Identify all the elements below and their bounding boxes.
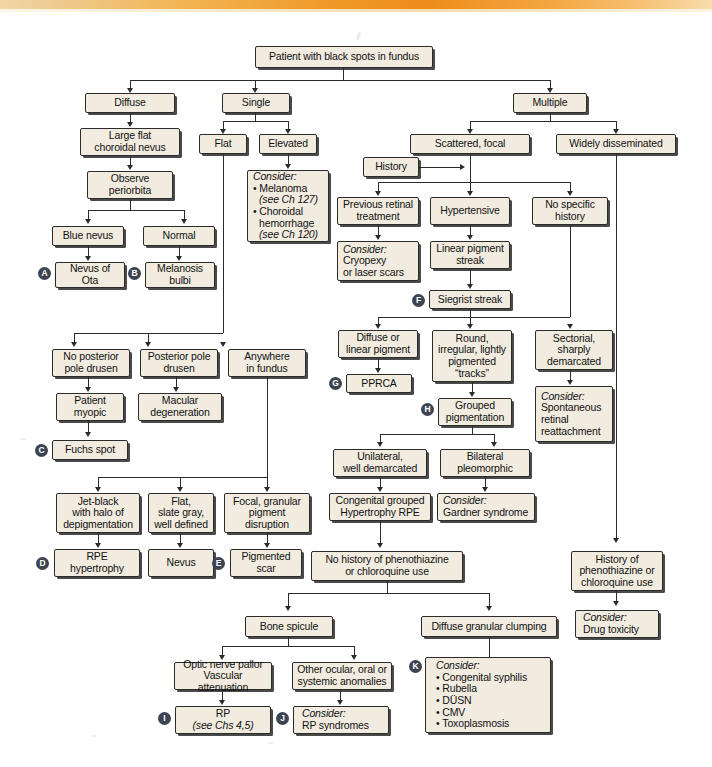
arrowhead (176, 256, 182, 261)
arrowhead (220, 342, 226, 347)
paper-speck (268, 742, 273, 744)
arrowhead (375, 191, 381, 196)
marker-c: C (35, 444, 48, 457)
connector (470, 154, 471, 182)
arrowhead (467, 324, 473, 329)
arrowhead (127, 165, 133, 170)
node-flat-slate-gray[interactable]: Flat, slate gray, well defined (148, 493, 214, 533)
arrowhead (377, 442, 383, 447)
connector (550, 113, 551, 121)
arrowhead (85, 256, 91, 261)
node-widely-disseminated[interactable]: Widely disseminated (556, 134, 676, 154)
node-focal-granular[interactable]: Focal, granular pigment disruption (224, 493, 310, 533)
node-no-specific-history[interactable]: No specific history (532, 197, 608, 225)
node-other-ocular-oral-systemic[interactable]: Other ocular, oral or systemic anomalies (292, 662, 392, 690)
arrowhead (337, 700, 343, 705)
arrowhead (219, 700, 225, 705)
node-diffuse-granular-clumping[interactable]: Diffuse granular clumping (421, 616, 557, 637)
arrowhead (486, 606, 492, 611)
marker-b: B (128, 267, 141, 280)
node-anywhere-in-fundus[interactable]: Anywhere in fundus (228, 349, 306, 377)
arrowhead (264, 487, 270, 492)
node-bilateral-pleomorphic[interactable]: Bilateral pleomorphic (440, 449, 530, 477)
arrowhead (375, 235, 381, 240)
arrowhead (377, 543, 383, 548)
node-consider-drug-toxicity[interactable]: Consider: Drug toxicity (575, 610, 659, 638)
node-elevated[interactable]: Elevated (259, 134, 317, 154)
arrowhead (351, 655, 357, 660)
connector (130, 199, 131, 210)
connector (570, 225, 571, 317)
node-melanosis-bulbi[interactable]: Melanosis bulbi (145, 262, 215, 288)
node-nevus-of-ota[interactable]: Nevus of Ota (55, 262, 125, 288)
node-jet-black[interactable]: Jet-black with halo of depigmentation (56, 493, 140, 533)
node-no-history-phenothiazine[interactable]: No history of phenothiazine or chloroqui… (311, 551, 463, 581)
arrowhead (127, 122, 133, 127)
node-nevus[interactable]: Nevus (148, 549, 214, 577)
node-scattered-focal[interactable]: Scattered, focal (410, 134, 530, 154)
connector (288, 637, 289, 646)
arrowhead (375, 324, 381, 329)
node-normal[interactable]: Normal (143, 226, 215, 246)
arrowhead (85, 387, 91, 392)
node-history-phenothiazine[interactable]: History of phenothiazine or chloroquine … (571, 551, 663, 591)
node-round-irregular-tracks[interactable]: Round, irregular, lightly pigmented “tra… (432, 330, 512, 382)
connector (470, 309, 471, 317)
arrowhead (467, 235, 473, 240)
node-macular-degeneration[interactable]: Macular degeneration (138, 393, 222, 421)
figure-page: Patient with black spots in fundus Diffu… (0, 0, 712, 767)
node-siegrist-streak[interactable]: Siegrist streak (429, 290, 511, 309)
node-consider-gardner-syndrome[interactable]: Consider: Gardner syndrome (437, 493, 535, 521)
arrowhead (264, 543, 270, 548)
arrowhead (467, 284, 473, 289)
node-grouped-pigmentation[interactable]: Grouped pigmentation (438, 398, 512, 426)
node-patient-myopic[interactable]: Patient myopic (56, 393, 124, 421)
arrowhead (177, 487, 183, 492)
node-diffuse-or-linear-pigment[interactable]: Diffuse or linear pigment (338, 330, 418, 358)
node-linear-pigment-streak[interactable]: Linear pigment streak (430, 241, 510, 269)
connector (378, 317, 570, 318)
node-consider-congenital-list[interactable]: Consider: • Congenital syphilis • Rubell… (425, 657, 551, 733)
connector (472, 426, 473, 434)
node-root[interactable]: Patient with black spots in fundus (255, 46, 433, 68)
node-history[interactable]: History (363, 157, 419, 177)
connector (98, 477, 267, 478)
node-rp[interactable]: RP (see Chs 4,5) (175, 706, 271, 734)
node-observe-periorbita[interactable]: Observe periorbita (87, 171, 173, 199)
node-flat[interactable]: Flat (199, 134, 247, 154)
node-bone-spicule[interactable]: Bone spicule (245, 616, 333, 637)
node-congenital-grouped-hypertrophy-rpe[interactable]: Congenital grouped Hypertrophy RPE (329, 493, 431, 521)
node-consider-cryopexy[interactable]: Consider: Cryopexy or laser scars (337, 241, 419, 281)
node-fuchs-spot[interactable]: Fuchs spot (52, 440, 128, 460)
node-rpe-hypertrophy[interactable]: RPE hypertrophy (54, 549, 140, 577)
connector (380, 434, 494, 435)
node-blue-nevus[interactable]: Blue nevus (52, 226, 124, 246)
connector (616, 154, 617, 540)
connector (255, 113, 256, 121)
arrowhead (71, 342, 77, 347)
arrowhead (181, 219, 187, 224)
node-consider-rp-syndromes[interactable]: Consider: RP syndromes (293, 706, 389, 734)
page-accent-band (0, 0, 712, 9)
node-diffuse[interactable]: Diffuse (85, 93, 175, 113)
node-large-flat-choroidal-nevus[interactable]: Large flat choroidal nevus (80, 128, 180, 156)
node-pigmented-scar[interactable]: Pigmented scar (230, 549, 302, 577)
node-optic-nerve-pallor[interactable]: Optic nerve pallor Vascular attenuation (174, 662, 272, 690)
arrowhead (482, 487, 488, 492)
node-sectorial-sharply-demarcated[interactable]: Sectorial, sharply demarcated (535, 330, 613, 370)
node-posterior-pole-drusen[interactable]: Posterior pole drusen (140, 349, 218, 377)
node-no-posterior-pole-drusen[interactable]: No posterior pole drusen (52, 349, 130, 377)
node-previous-retinal-treatment[interactable]: Previous retinal treatment (337, 197, 419, 225)
connector (223, 121, 288, 122)
node-pprca[interactable]: PPRCA (346, 374, 412, 393)
node-consider-spontaneous-reattachment[interactable]: Consider: Spontaneous retinal reattachme… (535, 386, 613, 442)
connector (489, 637, 490, 657)
node-unilateral-well-demarcated[interactable]: Unilateral, well demarcated (333, 449, 427, 477)
arrowhead (469, 392, 475, 397)
connector (470, 121, 616, 122)
arrowhead (95, 487, 101, 492)
node-consider-melanoma[interactable]: Consider: • Melanoma (see Ch 127) • Chor… (247, 170, 329, 242)
node-hypertensive[interactable]: Hypertensive (430, 197, 510, 225)
node-multiple[interactable]: Multiple (513, 93, 587, 113)
node-single[interactable]: Single (222, 93, 290, 113)
